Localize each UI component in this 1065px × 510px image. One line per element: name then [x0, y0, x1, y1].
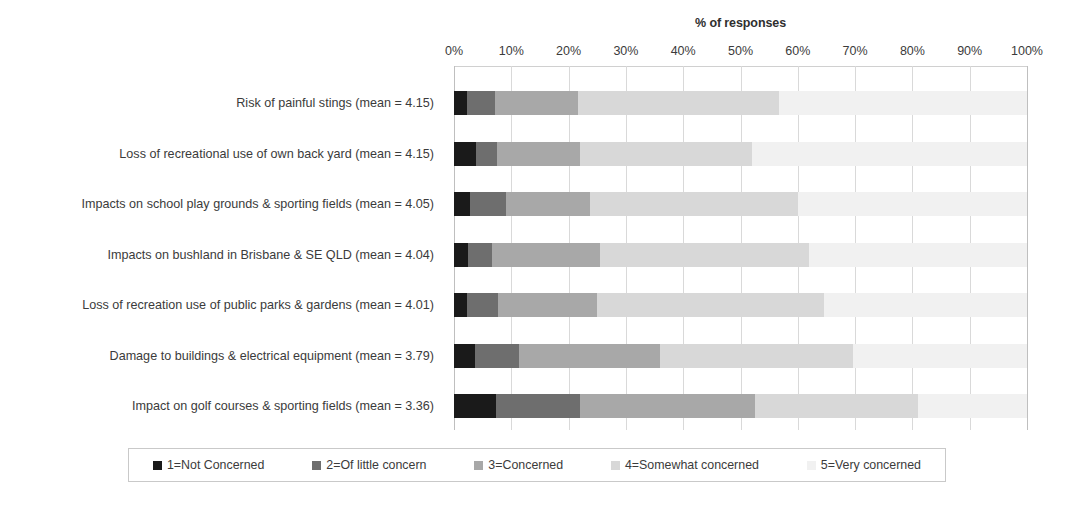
- bar-segment: [454, 243, 468, 267]
- legend-label: 5=Very concerned: [821, 458, 921, 472]
- bar-segment: [454, 394, 496, 418]
- bar-segment: [590, 192, 798, 216]
- category-label: Impacts on bushland in Brisbane & SE QLD…: [107, 243, 434, 267]
- legend-label: 1=Not Concerned: [167, 458, 264, 472]
- legend-swatch-icon: [312, 461, 321, 470]
- bar-row: [454, 91, 1027, 115]
- stacked-bar-chart: % of responses 0%10%20%30%40%50%60%70%80…: [0, 0, 1065, 510]
- category-labels: Risk of painful stings (mean = 4.15)Loss…: [0, 66, 444, 430]
- x-tick-label: 80%: [900, 44, 925, 58]
- chart-legend: 1=Not Concerned2=Of little concern3=Conc…: [128, 448, 946, 482]
- x-tick-label: 70%: [843, 44, 868, 58]
- category-label: Risk of painful stings (mean = 4.15): [236, 91, 434, 115]
- x-axis-title: % of responses: [454, 16, 1027, 30]
- bar-row: [454, 344, 1027, 368]
- bar-segment: [853, 344, 1027, 368]
- category-label: Impact on golf courses & sporting fields…: [132, 394, 434, 418]
- category-label: Impacts on school play grounds & sportin…: [82, 192, 434, 216]
- bar-segment: [497, 142, 580, 166]
- bar-segment: [454, 293, 467, 317]
- bar-row: [454, 394, 1027, 418]
- bar-segment: [660, 344, 853, 368]
- category-label: Loss of recreation use of public parks &…: [82, 293, 434, 317]
- legend-item[interactable]: 4=Somewhat concerned: [611, 458, 759, 472]
- bar-segment: [580, 394, 755, 418]
- bar-segment: [578, 91, 779, 115]
- bar-segment: [476, 142, 497, 166]
- legend-swatch-icon: [474, 461, 483, 470]
- x-tick-label: 20%: [556, 44, 581, 58]
- bar-segment: [470, 192, 506, 216]
- legend-item[interactable]: 1=Not Concerned: [153, 458, 264, 472]
- bar-segment: [580, 142, 752, 166]
- x-tick-label: 10%: [499, 44, 524, 58]
- x-tick-label: 90%: [957, 44, 982, 58]
- bar-segment: [779, 91, 1027, 115]
- bar-segment: [496, 394, 580, 418]
- category-label: Loss of recreational use of own back yar…: [119, 142, 434, 166]
- x-axis-tick-labels: 0%10%20%30%40%50%60%70%80%90%100%: [0, 44, 1065, 62]
- legend-label: 3=Concerned: [488, 458, 563, 472]
- bar-segment: [918, 394, 1027, 418]
- bar-segment: [600, 243, 809, 267]
- bar-segment: [597, 293, 823, 317]
- legend-swatch-icon: [153, 461, 162, 470]
- legend-swatch-icon: [611, 461, 620, 470]
- x-tick-label: 50%: [728, 44, 753, 58]
- bar-segment: [467, 91, 495, 115]
- bar-segment: [498, 293, 597, 317]
- x-tick-label: 100%: [1011, 44, 1043, 58]
- bar-segment: [798, 192, 1027, 216]
- x-tick-label: 0%: [445, 44, 463, 58]
- bar-segment: [454, 192, 470, 216]
- bar-segment: [454, 142, 476, 166]
- bar-segment: [475, 344, 519, 368]
- bar-segment: [454, 91, 467, 115]
- bar-segment: [468, 243, 492, 267]
- bar-row: [454, 243, 1027, 267]
- bar-row: [454, 192, 1027, 216]
- legend-swatch-icon: [807, 461, 816, 470]
- legend-label: 4=Somewhat concerned: [625, 458, 759, 472]
- legend-item[interactable]: 2=Of little concern: [312, 458, 426, 472]
- x-tick-label: 30%: [613, 44, 638, 58]
- legend-item[interactable]: 3=Concerned: [474, 458, 563, 472]
- plot-area: [454, 66, 1027, 430]
- legend-label: 2=Of little concern: [326, 458, 426, 472]
- bar-segment: [752, 142, 1027, 166]
- x-tick-label: 40%: [671, 44, 696, 58]
- bar-segment: [824, 293, 1027, 317]
- x-tick-label: 60%: [785, 44, 810, 58]
- category-label: Damage to buildings & electrical equipme…: [110, 344, 434, 368]
- bar-segment: [492, 243, 600, 267]
- bar-segment: [506, 192, 590, 216]
- gridline: [1027, 66, 1028, 430]
- bar-segment: [454, 344, 475, 368]
- bar-segment: [495, 91, 579, 115]
- bar-row: [454, 293, 1027, 317]
- bar-segment: [755, 394, 918, 418]
- bar-row: [454, 142, 1027, 166]
- bar-segment: [467, 293, 499, 317]
- bar-segment: [809, 243, 1027, 267]
- legend-item[interactable]: 5=Very concerned: [807, 458, 921, 472]
- bar-segment: [519, 344, 661, 368]
